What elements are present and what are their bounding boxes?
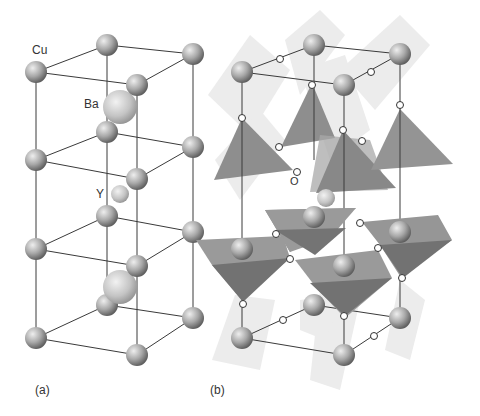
o-atom — [240, 301, 247, 308]
cu-atom — [303, 206, 325, 228]
ba-label: Ba — [84, 98, 99, 110]
cu-atom — [182, 221, 204, 243]
cu-atom — [231, 327, 253, 349]
cu-atom — [96, 121, 118, 143]
o-atom — [276, 144, 283, 151]
o-atom — [273, 231, 280, 238]
cu-atom — [333, 344, 355, 366]
cu-atom — [231, 238, 253, 260]
cu-atom — [126, 168, 148, 190]
cu-label: Cu — [32, 44, 47, 56]
cu-atom — [126, 255, 148, 277]
o-atom — [280, 317, 287, 324]
cu-atom — [333, 74, 355, 96]
o-atom — [340, 127, 347, 134]
cu-atom — [182, 136, 204, 158]
o-atom — [375, 245, 382, 252]
cu-atom — [25, 61, 47, 83]
panel-a-atoms — [25, 34, 204, 366]
o-atom — [399, 275, 406, 282]
o-atom — [359, 138, 366, 145]
cu-atom — [303, 294, 325, 316]
cu-atom — [389, 221, 411, 243]
cu-atom — [389, 43, 411, 65]
cu-atom — [96, 205, 118, 227]
o-atom — [397, 102, 404, 109]
o-atom — [368, 69, 375, 76]
ba-atom — [317, 189, 335, 207]
ba-atom — [103, 90, 137, 124]
cu-atom — [231, 61, 253, 83]
cu-atom — [25, 149, 47, 171]
cu-atom — [182, 43, 204, 65]
cu-atom — [303, 34, 325, 56]
panel-a-tag: (a) — [35, 384, 50, 396]
cu-atom — [25, 238, 47, 260]
o-atom — [357, 220, 364, 227]
o-atom — [371, 333, 378, 340]
o-atom — [287, 256, 294, 263]
cuo-pyramid — [371, 109, 453, 170]
cu-atom — [389, 307, 411, 329]
o-atom — [341, 313, 348, 320]
y-atom — [111, 185, 129, 203]
cu-atom — [182, 307, 204, 329]
panel-b-tag: (b) — [210, 384, 225, 396]
o-label: O — [290, 176, 299, 187]
y-label: Y — [96, 188, 104, 200]
cu-atom — [333, 255, 355, 277]
cu-atom — [25, 327, 47, 349]
o-atom — [309, 82, 316, 89]
cu-atom — [126, 344, 148, 366]
cu-atom — [126, 74, 148, 96]
o-atom — [277, 56, 284, 63]
crystal-structure-figure — [0, 0, 480, 416]
cu-atom — [96, 34, 118, 56]
o-atom — [239, 115, 246, 122]
